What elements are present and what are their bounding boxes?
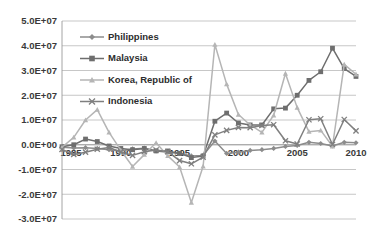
y-axis-tick-label: -3.0E+07 [18,213,57,224]
data-point-marker [342,117,347,122]
data-point-marker [224,82,229,87]
y-axis-tick-label: 2.0E+07 [21,90,57,101]
data-point-marker [353,128,358,133]
data-point-marker [330,46,335,51]
data-point-marker [153,140,158,145]
y-axis-tick-label: 5.0E+07 [21,15,57,26]
data-point-marker [106,130,111,135]
data-point-marker [307,78,312,83]
data-point-marker [89,56,95,62]
data-point-marker [177,151,182,156]
data-point-marker [71,142,76,147]
data-point-marker [318,141,323,146]
data-point-marker [259,147,264,152]
data-point-marker [95,139,100,144]
data-point-marker [212,42,217,47]
data-point-marker [201,164,206,169]
legend-item-indonesia[interactable]: Indonesia [80,95,153,106]
data-point-marker [189,155,194,160]
legend-label: Indonesia [108,95,153,106]
data-point-marker [212,119,217,124]
data-point-marker [295,93,300,98]
legend-label: Malaysia [108,52,148,63]
chart-legend: PhilippinesMalaysiaKorea, Republic ofInd… [80,31,193,107]
y-axis-tick-label: 1.0E+07 [21,114,57,125]
data-series-group [59,42,358,205]
y-axis-tick-label: 0.0E+00 [21,139,57,150]
y-axis-tick-label: -2.0E+07 [18,189,57,200]
y-axis-labels: 5.0E+074.0E+073.0E+072.0E+071.0E+070.0E+… [18,15,57,224]
data-point-marker [95,107,100,112]
data-point-marker [224,111,229,116]
y-axis-tick-label: -1.0E+07 [18,164,57,175]
x-axis-tick-label: 2005 [287,147,309,158]
line-chart: 5.0E+074.0E+073.0E+072.0E+071.0E+070.0E+… [0,0,376,243]
data-point-marker [283,106,288,111]
data-point-marker [236,121,241,126]
legend-item-malaysia[interactable]: Malaysia [80,52,148,63]
data-point-marker [89,34,95,40]
x-axis-tick-label: 2010 [345,147,366,158]
y-axis-tick-label: 4.0E+07 [21,40,57,51]
legend-item-korea-republic-of[interactable]: Korea, Republic of [80,74,193,85]
data-point-marker [130,147,135,152]
data-point-marker [83,137,88,142]
y-axis-tick-label: 3.0E+07 [21,65,57,76]
legend-item-philippines[interactable]: Philippines [80,31,159,42]
data-point-marker [283,71,288,76]
data-point-marker [295,105,300,110]
legend-label: Korea, Republic of [108,74,193,85]
data-point-marker [271,113,276,118]
data-point-marker [271,146,276,151]
data-point-marker [189,200,194,205]
data-series-korea-republic-of [59,42,358,205]
data-point-marker [342,140,347,145]
chart-container: 5.0E+074.0E+073.0E+072.0E+071.0E+070.0E+… [0,0,376,243]
data-point-marker [236,112,241,117]
legend-label: Philippines [108,31,159,42]
data-point-marker [318,69,323,74]
series-line [62,45,356,203]
data-point-marker [306,140,311,145]
